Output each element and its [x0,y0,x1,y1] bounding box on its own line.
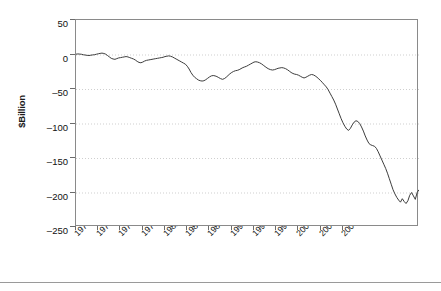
chart-figure: $Billion 500–50–100–150–200–250 1970–Q11… [0,0,441,291]
y-tick-label: –100 [0,117,75,135]
y-tick-label: 0 [0,48,75,66]
y-tick-label: –250 [0,220,75,238]
y-tick-label: –50 [0,82,75,100]
footer-divider [0,282,441,283]
plot-area [75,19,418,226]
y-tick-label: –150 [0,151,75,169]
y-tick-label: 50 [0,13,75,31]
data-series-line [76,53,419,203]
plot-canvas [76,20,419,227]
gridlines [76,55,419,193]
y-tick-label: –200 [0,186,75,204]
